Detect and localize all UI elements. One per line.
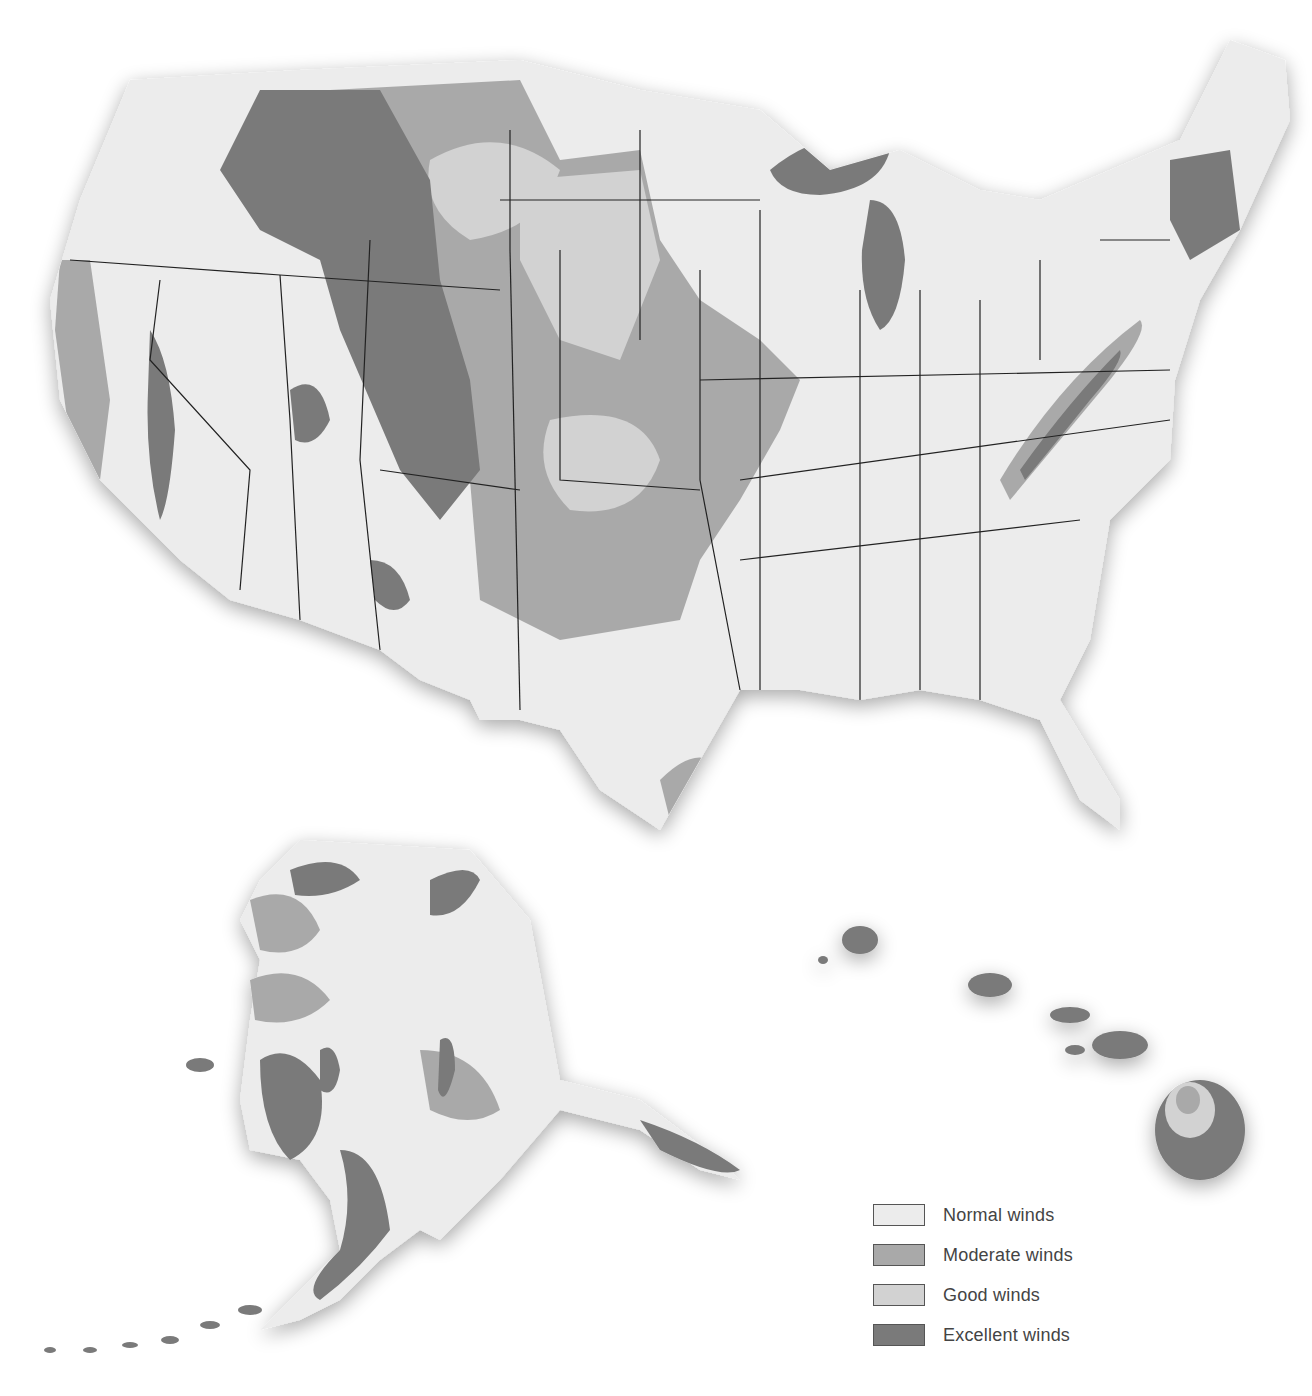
legend-label: Excellent winds (943, 1325, 1070, 1346)
aleutian-islands (44, 1058, 262, 1353)
wind-resource-map (0, 0, 1312, 1396)
legend-swatch-normal (873, 1204, 925, 1226)
legend-item-normal: Normal winds (873, 1195, 1133, 1235)
alaska (240, 840, 740, 1330)
legend-swatch-excellent (873, 1324, 925, 1346)
legend-label: Normal winds (943, 1205, 1054, 1226)
legend-item-moderate: Moderate winds (873, 1235, 1133, 1275)
legend-swatch-moderate (873, 1244, 925, 1266)
legend-label: Moderate winds (943, 1245, 1073, 1266)
legend-swatch-good (873, 1284, 925, 1306)
legend-label: Good winds (943, 1285, 1040, 1306)
map-legend: Normal winds Moderate winds Good winds E… (873, 1195, 1133, 1355)
hawaii (818, 926, 1245, 1180)
legend-item-excellent: Excellent winds (873, 1315, 1133, 1355)
legend-item-good: Good winds (873, 1275, 1133, 1315)
